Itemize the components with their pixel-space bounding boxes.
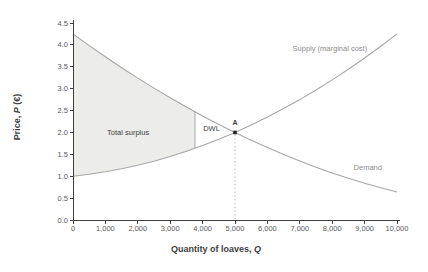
dwl-label: DWL <box>203 123 220 132</box>
supply-curve-label: Supply (marginal cost) <box>293 44 368 53</box>
total-surplus-label: Total surplus <box>107 128 149 137</box>
y-tick-label: 0.0 <box>40 216 68 225</box>
x-axis-title-variable: Q <box>254 244 261 254</box>
y-tick-label: 3.5 <box>40 62 68 71</box>
y-axis-title: Price, P (€) <box>12 94 22 141</box>
y-tick-label: 1.0 <box>40 172 68 181</box>
demand-curve-label: Demand <box>354 162 382 171</box>
y-tick-label: 3.0 <box>40 84 68 93</box>
x-tick-label: 10,000 <box>375 224 419 233</box>
equilibrium-point <box>233 131 237 135</box>
y-tick-label: 1.5 <box>40 150 68 159</box>
x-axis-title-text: Quantity of loaves, <box>171 244 254 254</box>
y-tick-label: 4.0 <box>40 40 68 49</box>
y-tick-label: 0.5 <box>40 194 68 203</box>
point-a-label: A <box>232 118 237 125</box>
y-axis-title-text: Price, <box>12 113 22 140</box>
x-axis-title: Quantity of loaves, Q <box>171 244 261 254</box>
y-axis-title-variable: P <box>12 107 22 113</box>
y-axis-title-unit: (€) <box>12 94 22 108</box>
y-tick-label: 4.5 <box>40 19 68 28</box>
y-tick-label: 2.0 <box>40 128 68 137</box>
y-tick-label: 2.5 <box>40 106 68 115</box>
chart-figure: 01,0002,0003,0004,0005,0006,0007,0008,00… <box>0 0 428 272</box>
